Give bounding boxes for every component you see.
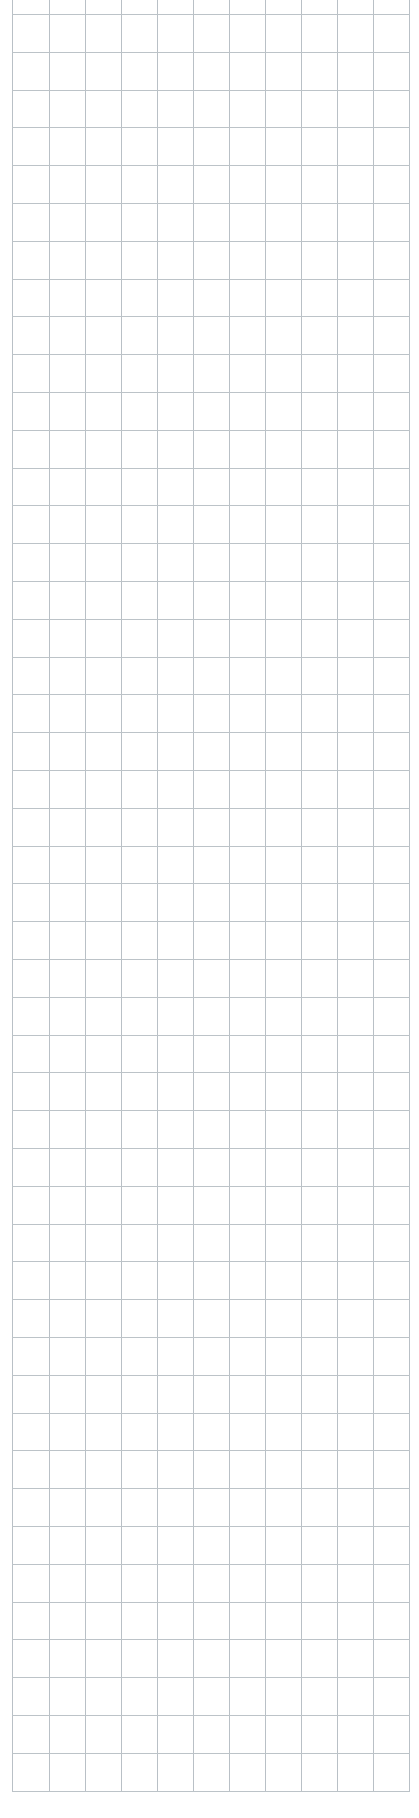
grid-vertical-line [121,0,122,1791]
grid-horizontal-line [12,1148,410,1149]
grid-horizontal-line [12,1224,410,1225]
grid-horizontal-line [12,52,410,53]
grid-horizontal-line [12,1564,410,1565]
grid-horizontal-line [12,1299,410,1300]
grid-vertical-line [85,0,86,1791]
grid-vertical-line [49,0,50,1791]
grid-horizontal-line [12,732,410,733]
grid-horizontal-line [12,316,410,317]
grid-horizontal-line [12,1186,410,1187]
grid-vertical-line [157,0,158,1791]
grid-horizontal-line [12,505,410,506]
grid-horizontal-line [12,203,410,204]
grid-horizontal-line [12,1337,410,1338]
grid-horizontal-line [12,1261,410,1262]
grid-horizontal-line [12,1413,410,1414]
grid-horizontal-line [12,14,410,15]
grid-horizontal-line [12,619,410,620]
grid-horizontal-line [12,808,410,809]
grid-horizontal-line [12,127,410,128]
grid-horizontal-line [12,921,410,922]
grid-horizontal-line [12,392,410,393]
grid-vertical-line [12,0,13,1791]
grid-horizontal-line [12,883,410,884]
grid-horizontal-line [12,694,410,695]
grid-horizontal-line [12,1110,410,1111]
grid-horizontal-line [12,468,410,469]
grid-horizontal-line [12,165,410,166]
grid-horizontal-line [12,1450,410,1451]
grid-horizontal-line [12,543,410,544]
grid-horizontal-line [12,997,410,998]
grid-horizontal-line [12,1072,410,1073]
grid-horizontal-line [12,430,410,431]
grid-vertical-line [373,0,374,1791]
grid-horizontal-line [12,1035,410,1036]
grid-vertical-line [265,0,266,1791]
grid-paper [0,0,419,1818]
grid-horizontal-line [12,1488,410,1489]
grid-horizontal-line [12,354,410,355]
grid-horizontal-line [12,1715,410,1716]
grid-horizontal-line [12,1677,410,1678]
grid-vertical-line [301,0,302,1791]
grid-horizontal-line [12,1639,410,1640]
grid-horizontal-line [12,846,410,847]
grid-horizontal-line [12,959,410,960]
grid-horizontal-line [12,581,410,582]
grid-vertical-line [337,0,338,1791]
grid-vertical-line [193,0,194,1791]
grid-horizontal-line [12,90,410,91]
grid-horizontal-line [12,770,410,771]
grid-horizontal-line [12,1753,410,1754]
grid-horizontal-line [12,1375,410,1376]
grid-horizontal-line [12,1602,410,1603]
grid-horizontal-line [12,1791,410,1792]
grid-horizontal-line [12,279,410,280]
grid-horizontal-line [12,657,410,658]
grid-horizontal-line [12,1526,410,1527]
grid-vertical-line [409,0,410,1791]
grid-horizontal-line [12,241,410,242]
grid-vertical-line [229,0,230,1791]
